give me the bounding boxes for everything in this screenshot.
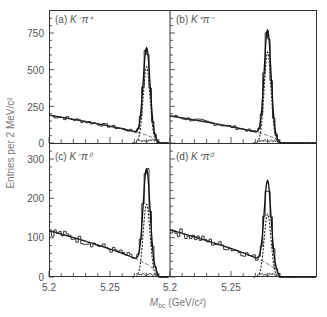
peaking-bkg-marker — [142, 273, 144, 275]
y-tick-0-top: 0 — [38, 138, 44, 149]
peaking-bkg-marker — [148, 274, 150, 276]
peaking-bkg-marker — [273, 140, 275, 142]
peaking-bkg-marker — [260, 274, 262, 276]
peaking-bkg-marker — [145, 141, 147, 143]
x-tick-5.25-right: 5.25 — [221, 282, 241, 293]
peaking-bkg-marker — [264, 274, 266, 276]
plot-frames — [49, 10, 317, 277]
peaking-bkg-marker — [154, 273, 156, 275]
panel-a-prefix: (a) — [55, 14, 70, 25]
peaking-bkg-marker — [269, 273, 271, 275]
panel-label-c: (c) K⁻π⁰ — [55, 151, 94, 162]
peaking-bkg-marker — [266, 274, 268, 276]
x-tick-5.2-right: 5.2 — [163, 282, 177, 293]
panel-d-plot — [170, 181, 316, 277]
peaking-bkg-marker — [273, 273, 275, 275]
peaking-bkg-marker — [260, 140, 262, 142]
peaking-bkg-marker — [142, 140, 144, 142]
peaking-bkg-marker — [152, 139, 154, 141]
data-histogram — [170, 191, 316, 277]
x-axis-unit: (GeV/c²) — [166, 297, 207, 308]
y-tick-250: 250 — [27, 102, 44, 113]
peaking-bkg-marker — [272, 141, 274, 143]
y-tick-200: 200 — [27, 193, 44, 204]
panel-d-prefix: (d) — [176, 151, 191, 162]
peaking-bkg-marker — [146, 141, 148, 143]
x-tick-5.25-left: 5.25 — [100, 282, 120, 293]
peaking-bkg-marker — [149, 273, 151, 275]
peaking-bkg-marker — [276, 140, 278, 142]
peaking-bkg-marker — [270, 139, 272, 141]
peaking-bkg-marker — [263, 274, 265, 276]
peaking-bkg-marker — [136, 140, 138, 142]
y-ticks-top — [49, 18, 175, 143]
peaking-bkg-marker — [275, 140, 277, 142]
peaking-bkg-marker — [148, 140, 150, 142]
peaking-bkg-marker — [257, 140, 259, 142]
signal-curve — [132, 204, 161, 277]
y-tick-750: 750 — [27, 28, 44, 39]
x-tick-5.2-left: 5.2 — [42, 282, 56, 293]
y-tick-100: 100 — [27, 232, 44, 243]
figure: 750 500 250 0 300 200 100 0 5.2 5.25 5.2… — [0, 0, 327, 317]
panel-c-prefix: (c) — [55, 151, 69, 162]
peaking-bkg-marker — [145, 275, 147, 277]
peaking-bkg-marker — [261, 140, 263, 142]
peaking-bkg-marker — [139, 139, 141, 141]
peaking-bkg-marker — [259, 141, 261, 143]
peaking-bkg-marker — [267, 140, 269, 142]
peaking-bkg-marker — [264, 139, 266, 141]
peaking-bkg-marker — [136, 273, 138, 275]
peaking-bkg-marker — [272, 273, 274, 275]
peaking-bkg-marker — [259, 273, 261, 275]
y-ticks-bottom — [49, 151, 175, 277]
total-fit-curve — [170, 30, 316, 143]
total-fit-curve — [49, 169, 169, 277]
panel-label-d: (d) K⁺π⁰ — [176, 151, 215, 162]
peaking-bkg-marker — [155, 140, 157, 142]
panel-b-plot — [170, 30, 316, 143]
signal-curve — [253, 214, 282, 277]
data-histogram — [170, 33, 316, 143]
total-fit-curve — [170, 181, 316, 277]
y-tick-300: 300 — [27, 154, 44, 165]
peaking-bkg-marker — [143, 140, 145, 142]
panel-b-particles: K⁺π⁻ — [191, 14, 215, 25]
panel-a-particles: K⁻π⁺ — [70, 14, 94, 25]
panel-b-prefix: (b) — [176, 14, 191, 25]
peaking-bkg-marker — [257, 274, 259, 276]
x-axis-title: Mbc (GeV/c²) — [150, 297, 206, 309]
peaking-bkg-marker — [261, 273, 263, 275]
total-fit-curve — [49, 48, 169, 143]
peaking-bkg-marker — [138, 273, 140, 275]
peaking-bkg-marker — [154, 140, 156, 142]
peaking-bkg-marker — [276, 274, 278, 276]
peaking-bkg-marker — [140, 274, 142, 276]
peaking-bkg-marker — [139, 274, 141, 276]
signal-curve — [253, 52, 282, 143]
background-curve — [49, 231, 169, 277]
peaking-bkg-marker — [275, 274, 277, 276]
peaking-bkg-marker — [152, 274, 154, 276]
y-axis-title: Entries per 2 MeV/c² — [5, 97, 16, 189]
peaking-bkg-marker — [155, 274, 157, 276]
y-tick-500: 500 — [27, 65, 44, 76]
peaking-bkg-marker — [143, 273, 145, 275]
peaking-bkg-marker — [270, 273, 272, 275]
peaking-bkg-marker — [151, 139, 153, 141]
panel-d-particles: K⁺π⁰ — [191, 151, 215, 162]
panel-c-plot — [49, 169, 169, 277]
peaking-bkg-marker — [149, 139, 151, 141]
peaking-bkg-marker — [266, 140, 268, 142]
peaking-bkg-marker — [140, 140, 142, 142]
peaking-bkg-marker — [138, 139, 140, 141]
peaking-bkg-marker — [151, 273, 153, 275]
peaking-bkg-marker — [269, 141, 271, 143]
panel-c-particles: K⁻π⁰ — [69, 151, 93, 162]
background-curve — [49, 115, 169, 143]
panel-label-a: (a) K⁻π⁺ — [55, 14, 94, 25]
peaking-bkg-marker — [267, 274, 269, 276]
peaking-bkg-marker — [263, 140, 265, 142]
panel-label-b: (b) K⁺π⁻ — [176, 14, 215, 25]
peaking-bkg-marker — [146, 274, 148, 276]
